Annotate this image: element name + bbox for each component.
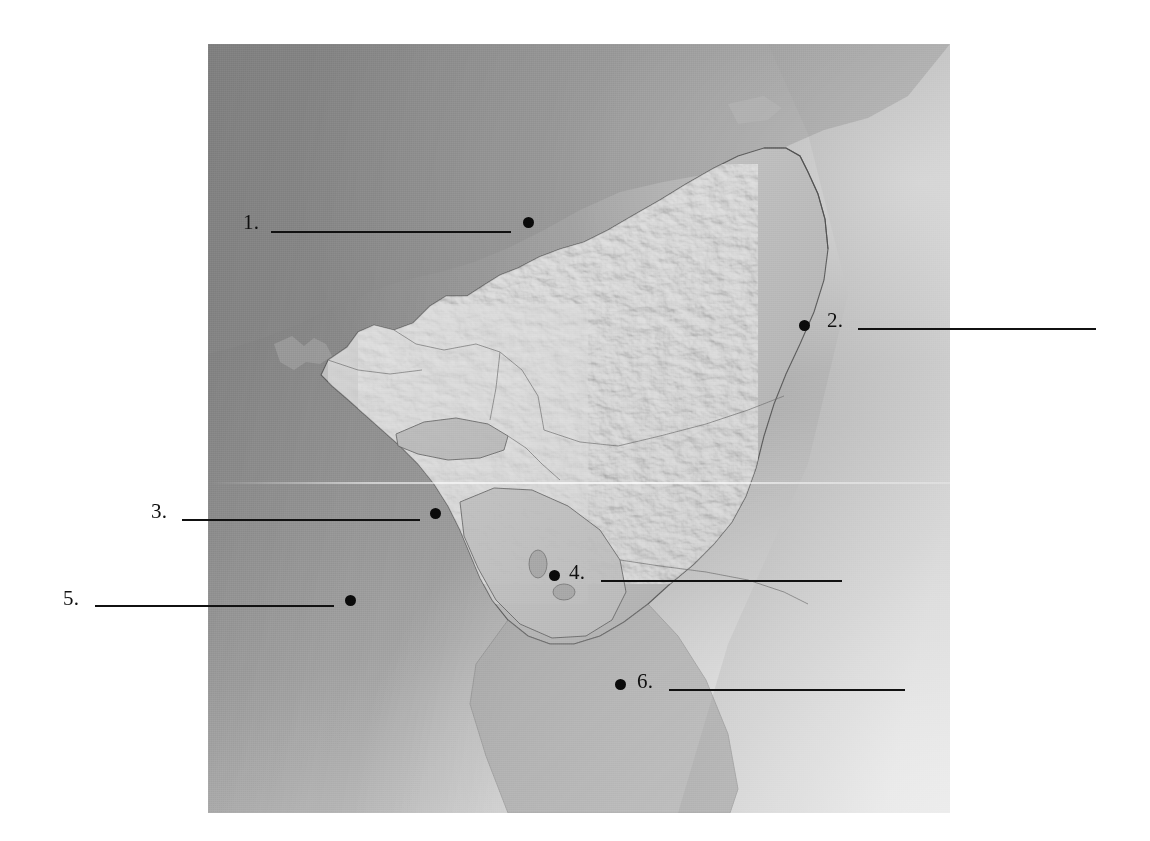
callout-2-number: 2. — [827, 310, 843, 331]
callout-1-marker-dot — [523, 217, 534, 228]
callout-1-number: 1. — [243, 212, 259, 233]
callout-3-number: 3. — [151, 501, 167, 522]
callout-6-answer-line[interactable] — [669, 689, 905, 691]
callout-6-number: 6. — [637, 671, 653, 692]
scan-hairline — [208, 482, 950, 484]
callout-3-answer-line[interactable] — [182, 519, 420, 521]
nicaragua-relief-map — [208, 44, 950, 813]
callout-5-number: 5. — [63, 588, 79, 609]
callout-4-answer-line[interactable] — [601, 580, 842, 582]
callout-4-marker-dot — [549, 570, 560, 581]
callout-2-answer-line[interactable] — [858, 328, 1096, 330]
callout-5-marker-dot — [345, 595, 356, 606]
callout-4-number: 4. — [569, 562, 585, 583]
scan-banding-vertical — [208, 44, 950, 813]
worksheet-page: 1. 2. 3. 4. 5. 6. — [0, 0, 1150, 841]
callout-3-marker-dot — [430, 508, 441, 519]
callout-1-answer-line[interactable] — [271, 231, 511, 233]
callout-6-marker-dot — [615, 679, 626, 690]
callout-5-answer-line[interactable] — [95, 605, 334, 607]
callout-2-marker-dot — [799, 320, 810, 331]
